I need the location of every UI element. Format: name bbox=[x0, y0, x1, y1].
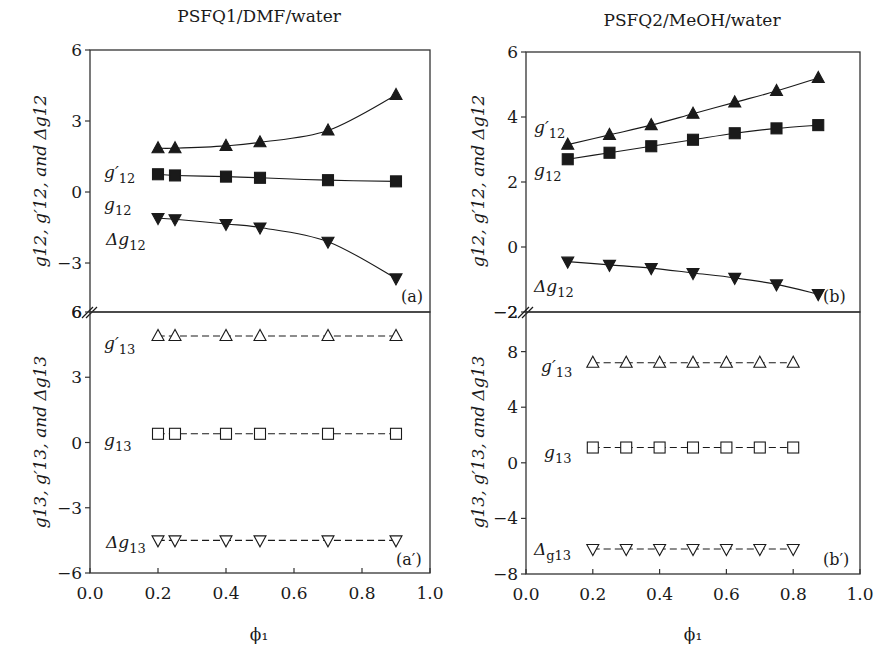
series-label: g13 bbox=[104, 430, 131, 454]
panel-2-series bbox=[562, 72, 825, 301]
y-tick-label: 4 bbox=[507, 107, 518, 127]
y-tick-label-break: −2 bbox=[493, 302, 518, 322]
series-line bbox=[158, 218, 396, 278]
open-triangle-down-marker bbox=[390, 536, 402, 547]
y-tick-label: 2 bbox=[507, 172, 518, 192]
filled-square-marker bbox=[813, 120, 824, 131]
open-triangle-up-marker bbox=[587, 356, 599, 367]
open-triangle-up-marker bbox=[254, 329, 266, 340]
filled-square-marker bbox=[255, 172, 266, 183]
filled-square-marker bbox=[562, 154, 573, 165]
series-line bbox=[158, 95, 396, 148]
data-layer bbox=[152, 72, 824, 556]
series-label: g′13 bbox=[104, 333, 135, 357]
open-triangle-up-marker bbox=[654, 356, 666, 367]
y-tick-label: 0 bbox=[507, 453, 518, 473]
open-square-marker bbox=[754, 442, 765, 453]
right-panel-title: PSFQ2/MeOH/water bbox=[603, 10, 781, 30]
filled-square-marker bbox=[771, 123, 782, 134]
panel-0-series bbox=[152, 88, 402, 284]
y-tick-label: −6 bbox=[57, 563, 82, 583]
open-triangle-down-marker bbox=[787, 544, 799, 555]
y-tick-label: −8 bbox=[493, 564, 518, 584]
x-tick-label: 0.8 bbox=[780, 584, 807, 604]
y-tick-label: 6 bbox=[507, 42, 518, 62]
open-square-marker bbox=[170, 428, 181, 439]
y-tick-label: 4 bbox=[507, 397, 518, 417]
x-tick-label: 0.2 bbox=[579, 584, 606, 604]
y-tick-label: 6 bbox=[71, 40, 82, 60]
x-tick-label: 1.0 bbox=[416, 583, 443, 603]
open-square-marker bbox=[255, 428, 266, 439]
filled-square-marker bbox=[391, 176, 402, 187]
filled-triangle-down-marker bbox=[169, 215, 181, 226]
filled-square-marker bbox=[688, 134, 699, 145]
panel-tag: (b′) bbox=[823, 550, 849, 569]
open-triangle-down-marker bbox=[720, 544, 732, 555]
panel-1-series bbox=[152, 329, 402, 546]
filled-triangle-down-marker bbox=[604, 260, 616, 271]
series-label: g13 bbox=[544, 442, 571, 466]
open-triangle-up-marker bbox=[720, 356, 732, 367]
filled-square-marker bbox=[729, 128, 740, 139]
plot-frame bbox=[90, 312, 430, 573]
panel-tag: (a) bbox=[401, 287, 423, 306]
filled-square-marker bbox=[604, 147, 615, 158]
y-axis-label-left-lower: g13, g′13, and Δg13 bbox=[30, 356, 50, 529]
x-tick-label: 0.0 bbox=[512, 584, 539, 604]
open-triangle-down-marker bbox=[220, 536, 232, 547]
open-square-marker bbox=[323, 428, 334, 439]
series-label: Δg13 bbox=[105, 532, 146, 556]
series-label: g12 bbox=[104, 194, 131, 218]
filled-triangle-up-marker bbox=[812, 72, 824, 83]
filled-triangle-down-marker bbox=[562, 257, 574, 268]
panel-tag: (b) bbox=[823, 287, 846, 306]
panel-3-series bbox=[587, 356, 799, 555]
open-triangle-up-marker bbox=[787, 356, 799, 367]
open-triangle-up-marker bbox=[754, 356, 766, 367]
open-triangle-up-marker bbox=[169, 329, 181, 340]
x-tick-label: 0.2 bbox=[144, 583, 171, 603]
open-triangle-up-marker bbox=[322, 329, 334, 340]
series-label: Δg13 bbox=[533, 539, 571, 563]
y-axis-label-left-upper: g12, g′12, and Δg12 bbox=[30, 95, 50, 268]
filled-triangle-down-marker bbox=[645, 264, 657, 275]
filled-square-marker bbox=[646, 141, 657, 152]
open-triangle-up-marker bbox=[220, 329, 232, 340]
filled-triangle-down-marker bbox=[152, 214, 164, 225]
filled-square-marker bbox=[170, 170, 181, 181]
open-triangle-down-marker bbox=[152, 536, 164, 547]
open-triangle-up-marker bbox=[620, 356, 632, 367]
y-tick-label: 0 bbox=[507, 237, 518, 257]
y-tick-label: 6 bbox=[71, 302, 82, 322]
open-triangle-up-marker bbox=[687, 356, 699, 367]
open-triangle-down-marker bbox=[754, 544, 766, 555]
filled-triangle-down-marker bbox=[220, 219, 232, 230]
x-axis-label-right: ϕ₁ bbox=[684, 624, 702, 644]
y-tick-label: 8 bbox=[507, 342, 518, 362]
open-square-marker bbox=[621, 442, 632, 453]
filled-triangle-up-marker bbox=[390, 88, 402, 99]
filled-square-marker bbox=[153, 169, 164, 180]
open-triangle-down-marker bbox=[687, 544, 699, 555]
filled-triangle-up-marker bbox=[169, 142, 181, 153]
x-tick-label: 1.0 bbox=[846, 584, 873, 604]
axes-layer: 630−36630−3−60.00.20.40.60.81.06420−2−28… bbox=[57, 40, 874, 604]
y-tick-label: 3 bbox=[71, 367, 82, 387]
open-square-marker bbox=[688, 442, 699, 453]
open-triangle-up-marker bbox=[152, 329, 164, 340]
open-square-marker bbox=[587, 442, 598, 453]
filled-triangle-up-marker bbox=[152, 142, 164, 153]
series-label: g′12 bbox=[104, 162, 135, 186]
filled-square-marker bbox=[323, 175, 334, 186]
open-triangle-up-marker bbox=[390, 329, 402, 340]
series-label: g′12 bbox=[534, 117, 565, 141]
y-tick-label: −3 bbox=[57, 498, 82, 518]
y-tick-label: −4 bbox=[493, 508, 518, 528]
open-square-marker bbox=[221, 428, 232, 439]
y-tick-label: 0 bbox=[71, 433, 82, 453]
y-tick-label: 0 bbox=[71, 182, 82, 202]
series-label: g12 bbox=[534, 160, 561, 184]
filled-triangle-down-marker bbox=[390, 274, 402, 285]
series-label: Δg12 bbox=[105, 229, 146, 253]
